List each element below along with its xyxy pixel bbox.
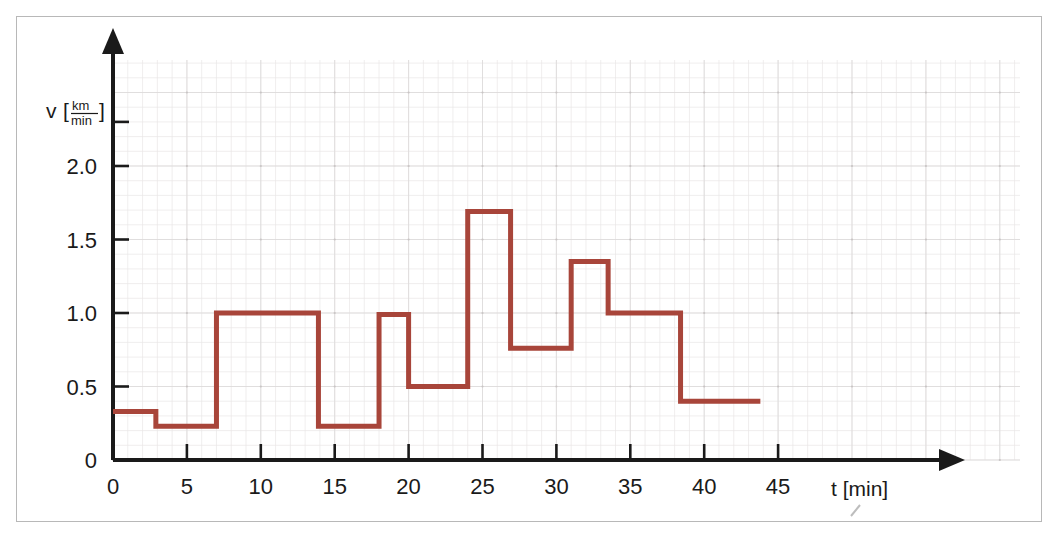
x-tick-label: 0 (107, 474, 119, 499)
x-tick-label: 40 (692, 474, 716, 499)
x-axis-arrowhead (939, 449, 965, 471)
y-axis-title-symbol: v (46, 99, 57, 122)
y-tick-label: 0.5 (66, 375, 97, 400)
y-tick-label: 1.5 (66, 228, 97, 253)
x-tick-label: 15 (322, 474, 346, 499)
y-tick-label: 0 (85, 448, 97, 473)
x-tick-label: 20 (396, 474, 420, 499)
y-axis-tick-labels: 00.51.01.52.0 (66, 154, 97, 473)
y-tick-label: 1.0 (66, 301, 97, 326)
velocity-time-step-chart: 00.51.01.52.0 051015202530354045 v [ km … (0, 0, 1059, 540)
x-tick-label: 25 (470, 474, 494, 499)
x-tick-label: 5 (181, 474, 193, 499)
x-axis-tick-labels: 051015202530354045 (107, 474, 790, 499)
y-axis-unit-denominator: min (71, 113, 92, 128)
y-axis-title-bracket-open: [ (63, 99, 69, 122)
stray-pencil-mark (851, 505, 860, 516)
y-axis-title-bracket-close: ] (99, 99, 105, 122)
x-tick-label: 30 (544, 474, 568, 499)
y-axis-title: v [ km min ] (46, 98, 105, 128)
y-axis-arrowhead (102, 28, 124, 54)
major-gridlines (113, 60, 1020, 460)
y-axis-unit-numerator: km (72, 98, 89, 113)
x-tick-label: 35 (618, 474, 642, 499)
velocity-step-series (113, 212, 760, 427)
x-axis-title: t [min] (831, 477, 888, 500)
chart-page: 00.51.01.52.0 051015202530354045 v [ km … (0, 0, 1059, 540)
x-tick-label: 45 (766, 474, 790, 499)
y-tick-label: 2.0 (66, 154, 97, 179)
x-tick-label: 10 (249, 474, 273, 499)
minor-gridlines (113, 60, 1020, 460)
